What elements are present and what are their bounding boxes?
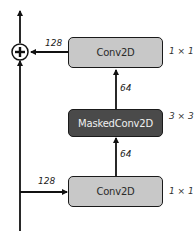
add-icon — [12, 44, 28, 60]
masked-conv2d-node: MaskedConv2D — [68, 109, 163, 137]
edge-label-output-128: 128 — [45, 38, 62, 48]
masked-conv2d-kernel: 3 × 3 — [169, 111, 194, 121]
residual-block-diagram: Conv2D 1 × 1 MaskedConv2D 3 × 3 Conv2D 1… — [0, 0, 196, 237]
conv2d-bottom-node: Conv2D — [68, 176, 163, 207]
edge-label-input-128: 128 — [38, 176, 55, 186]
edge-label-64-upper: 64 — [120, 83, 131, 93]
masked-conv2d-label: MaskedConv2D — [78, 118, 153, 129]
conv2d-bottom-label: Conv2D — [96, 186, 134, 197]
conv2d-top-kernel: 1 × 1 — [169, 46, 194, 56]
conv2d-bottom-kernel: 1 × 1 — [169, 186, 194, 196]
conv2d-top-node: Conv2D — [68, 37, 163, 68]
conv2d-top-label: Conv2D — [96, 47, 134, 58]
edge-label-64-lower: 64 — [120, 149, 131, 159]
